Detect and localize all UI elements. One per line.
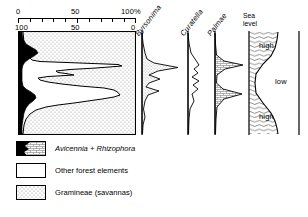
- series-palmae-area: [215, 33, 243, 134]
- series-byrsonima-area: [142, 33, 178, 134]
- axis-top-scale: 0 50 100% 100 50 0: [18, 8, 140, 30]
- panel-sealevel: high low high: [248, 31, 300, 135]
- legend-label-avicennia: Avicennia + Rhizophora: [55, 144, 135, 153]
- legend-item-other-forest: Other forest elements: [16, 163, 128, 178]
- axis-label-top-100: 100%: [121, 8, 141, 16]
- axis-label-top-50: 50: [71, 8, 80, 16]
- byrsonima-curve: [140, 31, 182, 135]
- cumulative-area-chart: [18, 31, 136, 135]
- axis-label-top-0: 0: [16, 8, 20, 16]
- palmae-curve: [213, 31, 247, 135]
- sealevel-curve: [248, 31, 300, 135]
- panel-byrsonima: [140, 31, 182, 135]
- panel-palmae: [213, 31, 247, 135]
- legend-label-other-forest: Other forest elements: [55, 166, 128, 175]
- curatella-curve: [186, 31, 212, 135]
- panel-curatella: [186, 31, 212, 135]
- legend-item-gramineae: Gramineae (savannas): [16, 185, 132, 200]
- legend-item-avicennia: Avicennia + Rhizophora: [16, 141, 135, 156]
- panel-cumulative: [18, 31, 136, 135]
- figure-root: 0 50 100% 100 50 0 Byrsonima Curatella P…: [0, 0, 308, 217]
- column-label-sealevel-line2: level: [243, 20, 257, 28]
- legend-label-gramineae: Gramineae (savannas): [55, 188, 132, 197]
- legend-swatch-other-forest: [16, 163, 46, 178]
- legend-swatch-avicennia: [16, 141, 46, 156]
- sealevel-annotation-low: low: [275, 78, 287, 86]
- legend-swatch-gramineae: [16, 185, 46, 200]
- column-label-sealevel-line1: Sea: [243, 12, 255, 20]
- sealevel-annotation-high-top: high: [259, 42, 274, 50]
- series-curatella-area: [188, 33, 199, 134]
- sealevel-annotation-high-bottom: high: [259, 113, 274, 121]
